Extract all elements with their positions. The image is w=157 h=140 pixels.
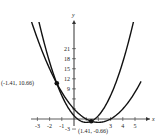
parabola-curve-1 — [31, 21, 141, 122]
y-tick-label: 18 — [64, 56, 70, 62]
x-tick-label: 3 — [109, 123, 112, 129]
y-tick-label: 12 — [64, 76, 70, 82]
x-tick-label: 4 — [121, 123, 124, 129]
intersection-label-1: (-1.41, 10.66) — [1, 80, 34, 87]
x-axis-arrow-icon — [146, 117, 150, 121]
intersection-point-2 — [89, 119, 94, 124]
x-tick-label: -2 — [47, 123, 52, 129]
parabola-curve-2 — [31, 0, 141, 122]
x-tick-label: -3 — [35, 123, 40, 129]
x-tick-label: 5 — [134, 123, 137, 129]
intersection-label-2: (1.41, -0.66) — [78, 128, 108, 135]
intersection-point-1 — [54, 81, 59, 86]
x-axis-label: x — [151, 116, 155, 122]
y-tick-label: 9 — [67, 86, 70, 92]
x-tick-label: -1 — [59, 123, 64, 129]
chart: xy-3-2-1345-3912151821(-1.41, 10.66)(1.4… — [0, 0, 157, 140]
y-tick-label: -3 — [65, 126, 70, 132]
y-tick-label: 15 — [64, 66, 70, 72]
y-axis-arrow-icon — [72, 20, 76, 24]
y-axis-label: y — [71, 12, 75, 18]
y-tick-label: 21 — [64, 46, 70, 52]
